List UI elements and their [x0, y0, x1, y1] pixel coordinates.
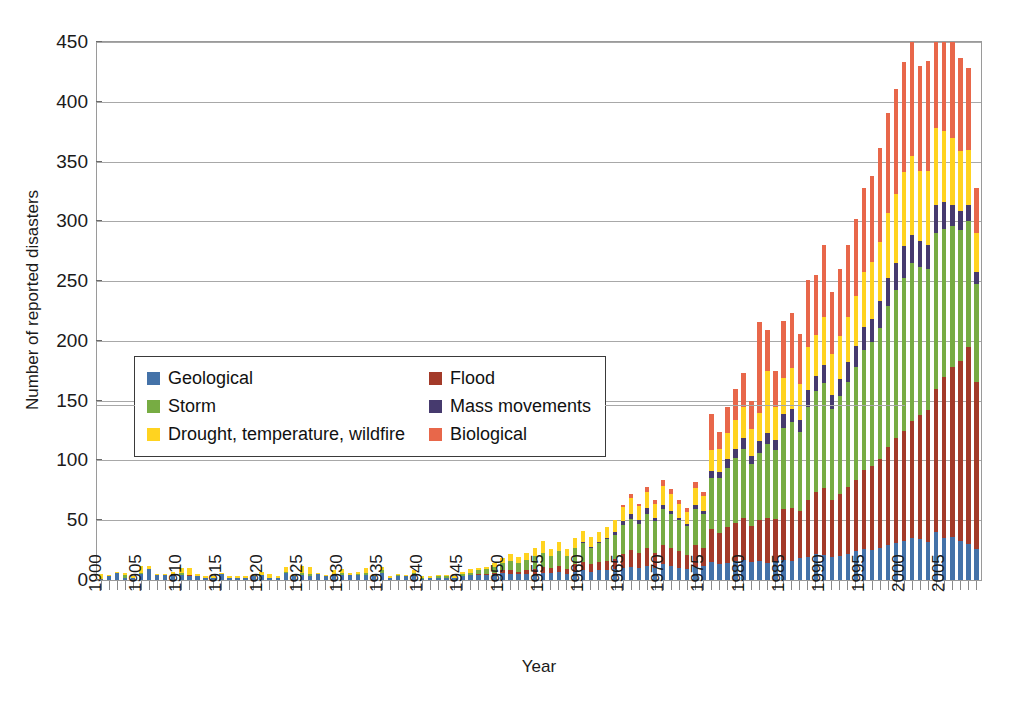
x-axis-label-cell — [234, 592, 242, 654]
bar-segment — [942, 131, 946, 203]
bar-segment — [645, 492, 649, 509]
x-axis-label-cell: 1945 — [458, 592, 466, 654]
x-axis-label-cell — [370, 592, 378, 654]
bar-stack — [942, 42, 946, 580]
legend-item-storm[interactable]: Storm — [147, 396, 419, 417]
x-axis-tick-mark — [831, 581, 832, 590]
legend-item-drought-temperature-wildfire[interactable]: Drought, temperature, wildfire — [147, 424, 419, 445]
bar-stack — [677, 500, 681, 580]
bar-stack — [476, 568, 480, 580]
x-axis-label-cell — [282, 592, 290, 654]
bar-column — [916, 42, 924, 580]
x-axis-tick-mark — [269, 581, 270, 590]
y-axis-tick-label: 250 — [38, 271, 88, 290]
bar-segment — [733, 458, 737, 523]
bar-column — [426, 42, 434, 580]
x-axis-label-cell — [426, 592, 434, 654]
x-axis-tick — [948, 581, 956, 590]
x-axis-tick — [354, 581, 362, 590]
bar-segment — [765, 330, 769, 371]
bar-stack — [155, 574, 159, 580]
bar-column — [274, 42, 282, 580]
legend-item-biological[interactable]: Biological — [429, 424, 591, 445]
bar-segment — [926, 269, 930, 410]
bar-segment — [741, 407, 745, 438]
bar-stack — [348, 573, 352, 580]
bar-stack — [830, 292, 834, 580]
bar-column — [290, 42, 298, 580]
bar-segment — [677, 568, 681, 580]
bar-segment — [741, 373, 745, 406]
x-axis-tick — [876, 581, 884, 590]
bar-segment — [637, 506, 641, 520]
bar-column — [193, 42, 201, 580]
bar-segment — [862, 470, 866, 549]
bar-column — [523, 42, 531, 580]
bar-column — [972, 42, 980, 580]
bar-segment — [701, 514, 705, 547]
x-axis-tick-mark — [558, 581, 559, 590]
bar-segment — [966, 544, 970, 580]
x-axis-label-cell: 1925 — [298, 592, 306, 654]
x-axis-label-cell — [386, 592, 394, 654]
legend-swatch-icon — [429, 428, 442, 441]
legend-item-label: Geological — [168, 368, 253, 389]
bar-segment — [902, 246, 906, 277]
bar-stack — [966, 68, 970, 580]
x-axis-tick — [595, 581, 603, 590]
x-axis-label-cell — [226, 592, 234, 654]
x-axis-label-cell — [105, 592, 113, 654]
x-axis-tick — [105, 581, 113, 590]
bar-column — [258, 42, 266, 580]
bar-segment — [902, 172, 906, 246]
x-axis-tick-mark — [149, 581, 150, 590]
x-axis-label-cell: 1990 — [820, 592, 828, 654]
x-axis-label-cell — [964, 592, 972, 654]
bar-segment — [870, 550, 874, 580]
bar-segment — [661, 486, 665, 505]
legend-item-mass-movements[interactable]: Mass movements — [429, 396, 591, 417]
bar-stack — [115, 572, 119, 580]
bar-column — [659, 42, 667, 580]
bar-segment — [790, 508, 794, 561]
bar-segment — [902, 62, 906, 172]
bar-column — [442, 42, 450, 580]
bar-stack — [276, 576, 280, 580]
bar-segment — [677, 551, 681, 568]
bar-segment — [356, 575, 360, 580]
bar-stack — [934, 42, 938, 580]
bar-segment — [717, 432, 721, 449]
bar-column — [507, 42, 515, 580]
bar-segment — [934, 205, 938, 234]
bar-segment — [725, 433, 729, 459]
legend-item-flood[interactable]: Flood — [429, 368, 591, 389]
bar-segment — [958, 361, 962, 540]
x-axis-label-cell — [507, 592, 515, 654]
x-axis-title: Year — [96, 657, 982, 677]
bar-segment — [838, 494, 842, 556]
bar-segment — [717, 564, 721, 580]
bar-segment — [822, 488, 826, 555]
bar-segment — [846, 362, 850, 381]
bar-column — [418, 42, 426, 580]
bar-segment — [806, 280, 810, 347]
bar-segment — [790, 409, 794, 422]
legend-swatch-icon — [429, 400, 442, 413]
x-axis-tick-mark — [598, 581, 599, 590]
bar-column — [940, 42, 948, 580]
bar-segment — [814, 492, 818, 554]
bar-segment — [589, 548, 593, 565]
bar-segment — [741, 449, 745, 518]
bar-stack — [589, 537, 593, 580]
legend-item-geological[interactable]: Geological — [147, 368, 419, 389]
bar-column — [370, 42, 378, 580]
bar-column — [699, 42, 707, 580]
x-axis-label-cell — [410, 592, 418, 654]
x-axis-tick-mark — [277, 581, 278, 590]
bar-segment — [516, 563, 520, 571]
bar-segment — [894, 89, 898, 194]
x-axis-label-cell — [683, 592, 691, 654]
bar-segment — [597, 570, 601, 580]
bar-segment — [894, 194, 898, 263]
x-axis-label-cell — [113, 592, 121, 654]
